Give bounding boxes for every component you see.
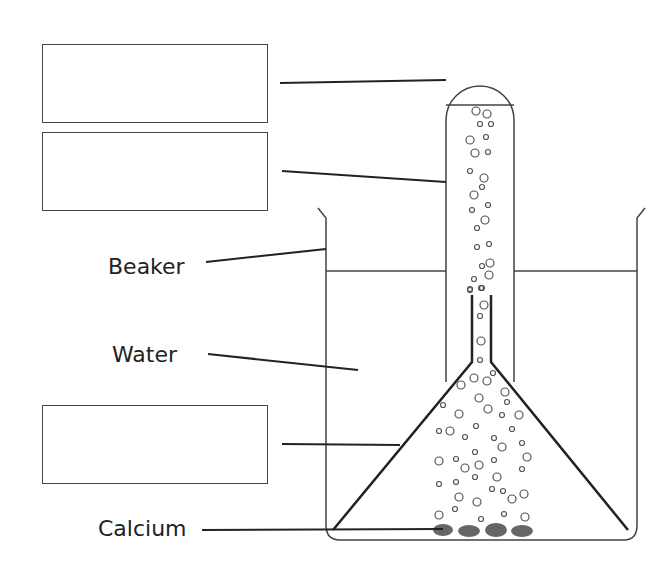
gas-bubbles xyxy=(435,107,531,522)
leader-line-water xyxy=(208,354,358,370)
leader-line-calcium xyxy=(202,529,443,530)
calcium-label: Calcium xyxy=(98,516,187,541)
label-box-gas[interactable] xyxy=(42,44,268,123)
label-box-funnel[interactable] xyxy=(42,405,268,484)
leader-line-beaker xyxy=(206,249,326,262)
beaker-label: Beaker xyxy=(108,254,185,279)
calcium-water-diagram: Beaker Water Calcium xyxy=(0,0,670,564)
water-label: Water xyxy=(112,342,177,367)
leader-line-box-1 xyxy=(280,80,446,83)
leader-line-box-2 xyxy=(282,171,446,182)
leader-line-box-3 xyxy=(282,444,400,445)
calcium-pieces xyxy=(433,523,533,537)
label-box-test-tube[interactable] xyxy=(42,132,268,211)
funnel xyxy=(333,295,628,530)
